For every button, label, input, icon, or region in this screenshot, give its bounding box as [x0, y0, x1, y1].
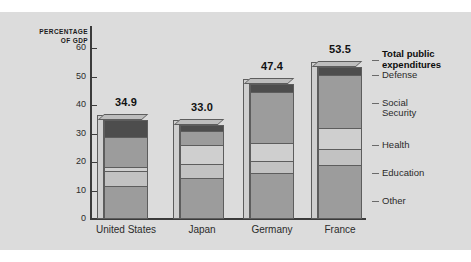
bar-side-face-0 [97, 115, 104, 219]
bar-top-face-0 [97, 114, 148, 120]
bar-segment-japan-education [180, 164, 224, 178]
legend-label-education: Education [382, 168, 424, 178]
bar-value-label-1: 33.0 [166, 101, 238, 113]
bar-top-face-2 [243, 78, 294, 84]
bar-segment-germany-social-security [250, 92, 294, 142]
bar-value-label-3: 53.5 [304, 43, 376, 55]
bar-segment-united-states-other [104, 186, 148, 219]
legend-label-health: Health [382, 140, 409, 150]
legend-connector-0 [372, 60, 379, 61]
legend-connector-5 [372, 201, 379, 202]
legend-connector-1 [372, 75, 379, 76]
bar-segment-japan-health [180, 145, 224, 164]
bar-segment-germany-health [250, 143, 294, 161]
bar-segment-united-states-education [104, 171, 148, 186]
y-tick-50 [92, 77, 97, 78]
y-tick-label-30: 30 [56, 128, 86, 138]
bar-side-face-1 [173, 120, 180, 219]
bar-segment-france-other [318, 165, 362, 219]
bar-segment-united-states-defense [104, 120, 148, 138]
bar-segment-japan-other [180, 178, 224, 219]
bar-segment-japan-defense [180, 125, 224, 131]
bar-segment-france-education [318, 149, 362, 165]
x-axis-label-france: France [292, 224, 388, 235]
bar-side-face-3 [311, 62, 318, 219]
bar-segment-france-health [318, 128, 362, 149]
legend-label-defense: Defense [382, 70, 417, 80]
y-tick-60 [92, 48, 97, 49]
bar-value-label-2: 47.4 [236, 60, 308, 72]
bar-segment-united-states-health [104, 167, 148, 171]
legend-connector-4 [372, 173, 379, 174]
legend-connector-3 [372, 145, 379, 146]
y-tick-0 [92, 219, 97, 220]
bar-side-face-2 [243, 79, 250, 219]
bar-top-face-3 [311, 61, 362, 67]
bar-segment-germany-defense [250, 84, 294, 93]
y-axis-title-line1: PERCENTAGE [39, 28, 88, 35]
y-tick-label-50: 50 [56, 71, 86, 81]
legend-label-total-public-expenditures: Total public expenditures [382, 49, 441, 70]
bar-value-label-0: 34.9 [90, 96, 162, 108]
bar-segment-france-social-security [318, 75, 362, 128]
legend-connector-2 [372, 103, 379, 104]
bar-segment-united-states-social-security [104, 137, 148, 167]
bar-segment-germany-other [250, 173, 294, 219]
y-tick-label-60: 60 [56, 42, 86, 52]
bar-segment-france-defense [318, 67, 362, 76]
bar-segment-japan-social-security [180, 131, 224, 146]
y-tick-label-20: 20 [56, 156, 86, 166]
y-tick-label-10: 10 [56, 185, 86, 195]
chart-figure: PERCENTAGE OF GDP 0102030405060 34.9Unit… [0, 0, 471, 262]
y-tick-label-40: 40 [56, 99, 86, 109]
legend-label-other: Other [382, 196, 406, 206]
bar-top-face-1 [173, 119, 224, 125]
y-tick-label-0: 0 [56, 213, 86, 223]
legend-label-social-security: Social Security [382, 98, 416, 118]
bar-segment-germany-education [250, 161, 294, 174]
